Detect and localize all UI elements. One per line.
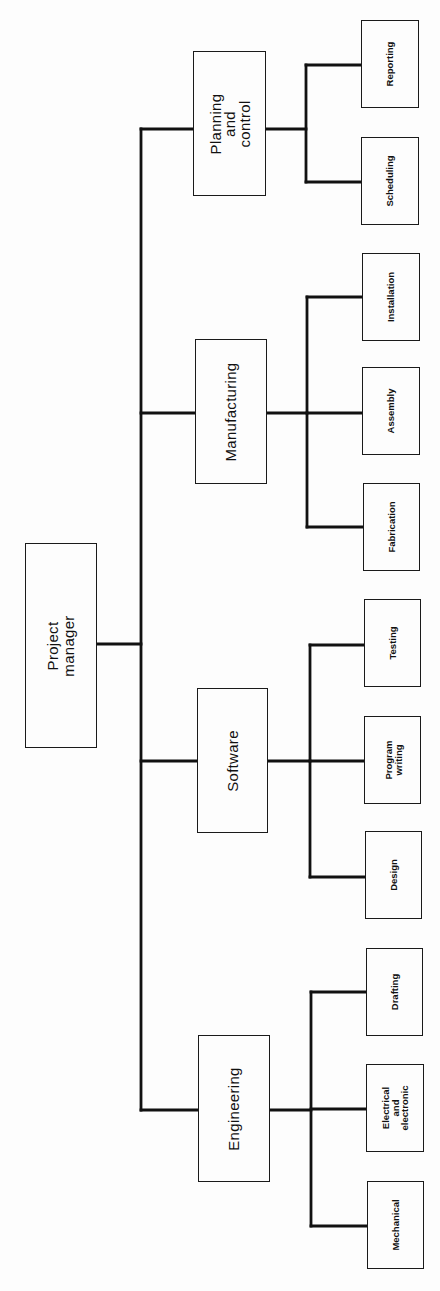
node-label: Electrical and electronic (381, 1086, 410, 1131)
node-label: Installation (386, 272, 396, 322)
node-label: Project manager (45, 615, 77, 676)
node-program-writing: Program writing (364, 716, 421, 804)
node-label: Mechanical (391, 1199, 401, 1250)
node-fabrication: Fabrication (363, 483, 420, 571)
node-label: Planning and control (208, 93, 251, 154)
node-testing: Testing (364, 599, 421, 687)
node-manufacturing: Manufacturing (195, 339, 267, 484)
node-electrical-and-electronic: Electrical and electronic (366, 1064, 424, 1152)
node-engineering: Engineering (198, 1035, 270, 1182)
node-label: Scheduling (385, 155, 395, 206)
node-scheduling: Scheduling (361, 137, 419, 225)
node-label: Manufacturing (224, 362, 238, 461)
node-label: Design (389, 859, 399, 891)
node-label: Software (225, 730, 239, 792)
node-assembly: Assembly (362, 367, 420, 455)
node-label: Engineering (227, 1067, 241, 1150)
node-label: Fabrication (387, 501, 397, 552)
org-chart: Project manager Planning and control Man… (0, 0, 440, 1291)
node-reporting: Reporting (361, 20, 419, 108)
node-planning-and-control: Planning and control (193, 51, 266, 196)
node-mechanical: Mechanical (367, 1181, 424, 1269)
node-installation: Installation (362, 253, 420, 341)
node-label: Reporting (385, 42, 395, 87)
node-project-manager: Project manager (25, 543, 97, 748)
node-design: Design (365, 831, 422, 919)
node-label: Program writing (383, 740, 402, 779)
node-label: Assembly (386, 389, 396, 434)
node-label: Drafting (390, 974, 400, 1010)
node-software: Software (197, 688, 268, 833)
node-drafting: Drafting (366, 948, 423, 1036)
node-label: Testing (388, 626, 398, 659)
